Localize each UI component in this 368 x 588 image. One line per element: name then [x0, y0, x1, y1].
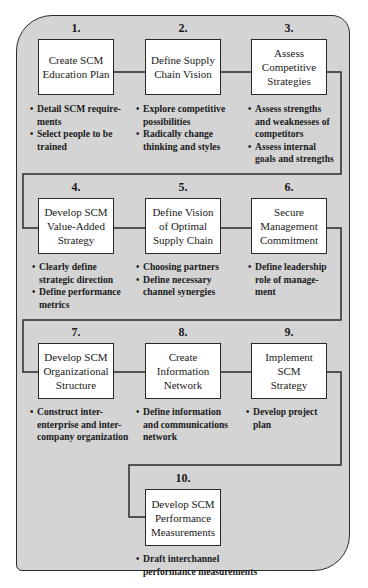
step-5-bullet: Define necessary channel synergies	[136, 274, 248, 299]
step-4-number: 4.	[38, 180, 114, 195]
step-6-title: Secure Management Commitment	[260, 205, 318, 247]
step-3-bullet: Assess strengths and weaknesses of compe…	[248, 103, 348, 141]
step-9-title: Implement SCM Strategy	[265, 350, 313, 392]
step-3-bullets: Assess strengths and weaknesses of compe…	[248, 103, 348, 166]
step-5-title: Define Vision of Optimal Supply Chain	[152, 205, 213, 247]
step-1-box: Create SCM Education Plan	[38, 39, 114, 95]
step-8-bullets: Define information and communications ne…	[136, 406, 248, 444]
step-3-box: Assess Competitive Strategies	[251, 39, 327, 95]
step-1-bullets: Detail SCM require- ments Select people …	[30, 103, 142, 153]
step-9-bullets: Develop project plan	[246, 406, 346, 431]
step-3-number: 3.	[251, 21, 327, 36]
step-9-number: 9.	[251, 325, 327, 340]
step-10-box: Develop SCM Performance Measurements	[145, 489, 221, 546]
step-8-title: Create Information Network	[157, 350, 210, 392]
step-6-box: Secure Management Commitment	[251, 198, 327, 254]
step-5-bullets: Choosing partners Define necessary chann…	[136, 261, 248, 299]
step-9-box: Implement SCM Strategy	[251, 343, 327, 399]
step-2-title: Define Supply Chain Vision	[151, 53, 215, 81]
step-5-bullet: Choosing partners	[136, 261, 248, 274]
step-10-bullet: Draft interchannel performance measureme…	[136, 553, 286, 578]
step-2-box: Define Supply Chain Vision	[145, 39, 221, 95]
step-2-bullet: Radically change thinking and styles	[136, 128, 248, 153]
step-4-title: Develop SCM Value-Added Strategy	[44, 205, 107, 247]
step-4-bullet: Define performance metrics	[32, 286, 144, 311]
step-3-bullet: Assess internal goals and strengths	[248, 141, 348, 166]
step-5-number: 5.	[145, 180, 221, 195]
step-4-box: Develop SCM Value-Added Strategy	[38, 198, 114, 254]
step-8-number: 8.	[145, 325, 221, 340]
step-7-title: Develop SCM Organizational Structure	[43, 350, 108, 392]
step-7-bullets: Construct inter- enterprise and inter- c…	[30, 406, 148, 444]
step-1-title: Create SCM Education Plan	[43, 53, 110, 81]
step-10-number: 10.	[145, 471, 221, 486]
step-8-box: Create Information Network	[145, 343, 221, 399]
step-7-number: 7.	[38, 325, 114, 340]
step-1-number: 1.	[38, 21, 114, 36]
step-6-bullets: Define leadership role of manage- ment	[248, 261, 348, 299]
step-10-bullets: Draft interchannel performance measureme…	[136, 553, 286, 578]
step-1-bullet: Detail SCM require- ments	[30, 103, 142, 128]
step-2-bullets: Explore competitive possibilities Radica…	[136, 103, 248, 153]
step-10-title: Develop SCM Performance Measurements	[151, 497, 215, 539]
step-4-bullets: Clearly define strategic direction Defin…	[32, 261, 144, 311]
step-6-bullet: Define leadership role of manage- ment	[248, 261, 348, 299]
step-5-box: Define Vision of Optimal Supply Chain	[145, 198, 221, 254]
step-6-number: 6.	[251, 180, 327, 195]
step-7-bullet: Construct inter- enterprise and inter- c…	[30, 406, 148, 444]
step-1-bullet: Select people to be trained	[30, 128, 142, 153]
step-2-bullet: Explore competitive possibilities	[136, 103, 248, 128]
step-8-bullet: Define information and communications ne…	[136, 406, 248, 444]
step-9-bullet: Develop project plan	[246, 406, 346, 431]
step-4-bullet: Clearly define strategic direction	[32, 261, 144, 286]
step-2-number: 2.	[145, 21, 221, 36]
step-3-title: Assess Competitive Strategies	[262, 46, 316, 88]
step-7-box: Develop SCM Organizational Structure	[38, 343, 114, 399]
